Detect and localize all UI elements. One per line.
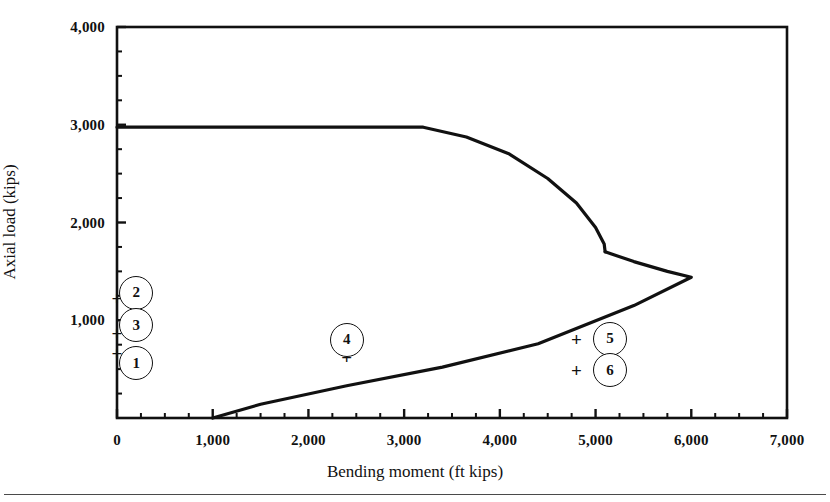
point-label-marker-5: 5	[593, 322, 627, 356]
x-axis-title: Bending moment (ft kips)	[327, 462, 503, 482]
x-tick-label: 2,000	[291, 432, 326, 449]
x-tick-label: 0	[113, 432, 121, 449]
x-tick-label: 7,000	[770, 432, 805, 449]
x-tick-label: 4,000	[482, 432, 517, 449]
point-label-marker-1: 1	[119, 346, 153, 380]
point-label-marker-4: 4	[330, 323, 364, 357]
plot-frame	[117, 27, 787, 418]
x-tick-label: 1,000	[195, 432, 230, 449]
y-tick-label: 1,000	[70, 312, 105, 329]
y-tick-label: 3,000	[70, 116, 105, 133]
data-point-plus-marker-6: +	[571, 361, 582, 380]
y-axis-title: Axial load (kips)	[0, 164, 20, 279]
x-tick-label: 6,000	[674, 432, 709, 449]
page-bottom-rule	[4, 494, 826, 495]
interaction-diagram-figure: Bending moment (ft kips) Axial load (kip…	[0, 0, 830, 502]
point-label-marker-6: 6	[593, 353, 627, 387]
x-tick-label: 5,000	[578, 432, 613, 449]
data-point-plus-marker-5: +	[571, 329, 582, 348]
x-tick-label: 3,000	[387, 432, 422, 449]
point-label-marker-3: 3	[119, 308, 153, 342]
point-label-marker-2: 2	[119, 276, 153, 310]
chart-plot-area	[0, 0, 830, 502]
y-tick-label: 4,000	[70, 19, 105, 36]
y-tick-label: 2,000	[70, 214, 105, 231]
